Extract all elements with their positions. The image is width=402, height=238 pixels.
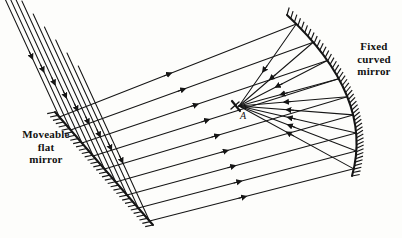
optics-diagram-figure: Moveable flat mirror Fixed curved mirror… bbox=[0, 0, 402, 238]
focal-point-label: A bbox=[240, 110, 246, 121]
ray-diagram-canvas bbox=[0, 0, 402, 238]
curved-mirror-label: Fixed curved mirror bbox=[348, 40, 400, 78]
flat-mirror-label: Moveable flat mirror bbox=[4, 128, 88, 166]
curved-mirror-converging-rays bbox=[239, 24, 356, 169]
